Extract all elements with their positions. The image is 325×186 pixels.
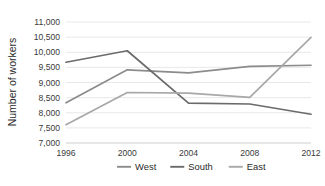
y-tick-label: 8,000 (38, 108, 60, 118)
y-tick-label: 10,500 (34, 32, 61, 42)
x-tick-label: 1996 (56, 148, 75, 158)
legend-label: West (135, 161, 157, 172)
line-chart-figure: 7,0007,5008,0008,5009,0009,50010,00010,5… (0, 0, 325, 186)
x-tick-label: 2008 (240, 148, 259, 158)
chart-canvas: 7,0007,5008,0008,5009,0009,50010,00010,5… (0, 0, 325, 186)
x-tick-label: 2012 (301, 148, 320, 158)
x-tick-label: 2000 (118, 148, 137, 158)
y-tick-label: 11,000 (34, 17, 60, 27)
x-tick-label: 2004 (179, 148, 198, 158)
y-tick-label: 7,000 (38, 138, 60, 148)
y-axis-tick-labels: 7,0007,5008,0008,5009,0009,50010,00010,5… (34, 17, 61, 148)
y-tick-label: 10,000 (34, 47, 61, 57)
y-tick-label: 9,000 (38, 78, 60, 88)
legend-label: South (188, 161, 213, 172)
y-tick-label: 7,500 (38, 123, 60, 133)
legend-label: East (247, 161, 266, 172)
y-tick-label: 9,500 (38, 62, 60, 72)
y-tick-label: 8,500 (38, 93, 60, 103)
y-axis-title: Number of workers (6, 38, 18, 127)
